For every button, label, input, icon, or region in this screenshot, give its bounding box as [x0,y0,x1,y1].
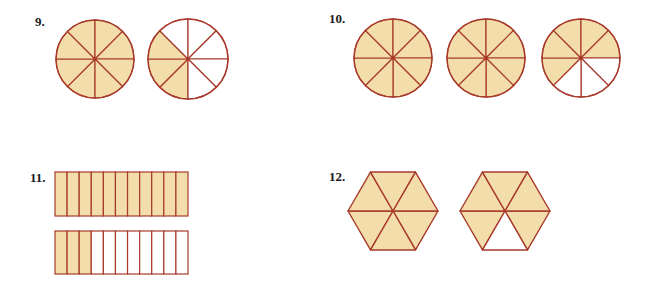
problem-9-circle-2-center [187,58,190,61]
problem-11-bar-1-cell [103,172,115,216]
problem-11-bar-1-cell [67,172,79,216]
problem-11-bar-2-cell [55,231,67,274]
problem-11-bar-2-cell [140,231,152,274]
problem-10-circle-2-center [485,57,488,60]
problem-9-circle-1-center [94,58,97,61]
problem-11-bar-1-cell [79,172,91,216]
problem-11-bar-1-cell [176,172,188,216]
problem-11-bar-2-cell [128,231,140,274]
problem-10-circle-3-center [580,57,583,60]
problem-11-bar-2-cell [91,231,103,274]
problem-11-bar-1-cell [140,172,152,216]
problem-10-circle-1-center [392,57,395,60]
problem-11-bar-1-cell [115,172,127,216]
problem-11-bar-1-cell [91,172,103,216]
problem-11-bar-2-cell [79,231,91,274]
problem-11-bar-2-cell [67,231,79,274]
problem-11-bar-2-cell [152,231,164,274]
problem-11-bar-1-cell [128,172,140,216]
problem-11-bar-2-cell [164,231,176,274]
fraction-figures [0,0,655,297]
problem-11-bar-1-cell [164,172,176,216]
problem-11-bar-2-cell [176,231,188,274]
problem-11-bar-1-cell [55,172,67,216]
problem-11-bar-2-cell [115,231,127,274]
problem-11-bar-1-cell [152,172,164,216]
problem-11-bar-2-cell [103,231,115,274]
